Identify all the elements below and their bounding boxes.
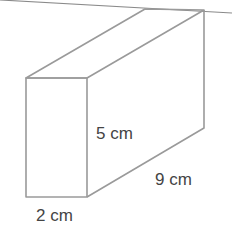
height-label: 5 cm [96, 124, 133, 143]
side-face [87, 10, 204, 197]
prism-diagram: 5 cm 9 cm 2 cm [0, 0, 232, 233]
length-label: 9 cm [155, 170, 192, 189]
front-face [26, 78, 87, 197]
width-label: 2 cm [36, 206, 73, 225]
cut-off-line [0, 0, 232, 13]
top-face [26, 9, 204, 78]
